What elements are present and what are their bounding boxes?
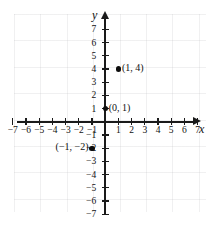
y-axis-tick: [102, 29, 109, 30]
x-axis-tick: [65, 118, 66, 125]
y-axis-tick-label: −7: [80, 209, 96, 219]
y-axis-tick-label: −5: [80, 183, 96, 193]
y-axis-tick: [102, 95, 109, 96]
x-axis-tick: [144, 118, 145, 125]
x-axis-tick: [171, 118, 172, 125]
y-axis-tick-label: −6: [80, 196, 96, 206]
y-axis-arrow-icon: [101, 11, 109, 19]
background-grid: [14, 14, 206, 212]
x-axis-tick: [184, 118, 185, 125]
x-axis-line: [17, 121, 195, 123]
y-axis-tick-label: 3: [80, 77, 96, 87]
data-point: [116, 66, 121, 71]
y-axis-tick-label: 7: [80, 24, 96, 34]
y-axis-tick-label: 4: [80, 64, 96, 74]
y-axis-tick: [102, 214, 109, 215]
x-axis-tick: [78, 118, 79, 125]
data-point-label: (1, 4): [122, 62, 144, 73]
x-axis-tick: [25, 118, 26, 125]
y-axis-line: [104, 18, 106, 215]
y-axis-tick: [102, 187, 109, 188]
x-axis-tick-label: 7: [189, 125, 207, 135]
x-axis-tick: [157, 118, 158, 125]
y-axis-tick: [102, 82, 109, 83]
coordinate-plane: x y −7−6−5−4−3−2−112345677654321−1−2−3−4…: [0, 0, 218, 226]
x-axis-tick: [39, 118, 40, 125]
y-axis-tick-label: 6: [80, 38, 96, 48]
y-axis-tick-label: −1: [80, 130, 96, 140]
y-axis-tick: [102, 200, 109, 201]
x-axis-tick: [197, 118, 198, 125]
y-axis-tick-label: 1: [80, 104, 96, 114]
x-axis-tick: [131, 118, 132, 125]
data-point: [103, 106, 108, 111]
data-point-label: (−1, −2): [56, 141, 89, 152]
y-axis-tick-label: 5: [80, 51, 96, 61]
y-axis-tick-label: −4: [80, 170, 96, 180]
y-axis-tick-label: 2: [80, 90, 96, 100]
x-axis-tick: [52, 118, 53, 125]
y-axis-tick: [102, 134, 109, 135]
y-axis-tick: [102, 68, 109, 69]
x-axis-tick: [118, 118, 119, 125]
y-axis-tick: [102, 161, 109, 162]
y-axis-tick: [102, 55, 109, 56]
y-axis-label: y: [92, 8, 97, 23]
y-axis-tick: [102, 148, 109, 149]
x-axis-tick: [91, 118, 92, 125]
y-axis-tick: [102, 174, 109, 175]
data-point-label: (0, 1): [109, 102, 131, 113]
y-axis-tick: [102, 42, 109, 43]
y-axis-tick-label: −3: [80, 156, 96, 166]
data-point: [89, 146, 94, 151]
x-axis-tick: [12, 118, 13, 125]
